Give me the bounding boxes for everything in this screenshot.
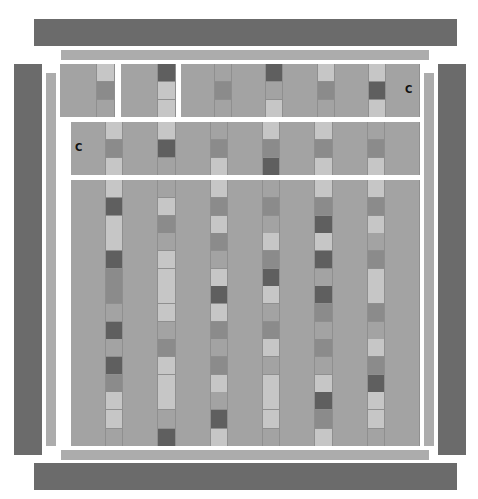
square-strip bbox=[106, 233, 123, 286]
plain-block bbox=[176, 233, 211, 286]
square-strip bbox=[211, 180, 228, 233]
strip-square bbox=[211, 216, 227, 233]
strip-square bbox=[263, 122, 279, 140]
strip-square bbox=[97, 64, 114, 82]
strip-square bbox=[106, 216, 122, 233]
strip-square bbox=[315, 140, 331, 158]
strip-square bbox=[368, 158, 384, 175]
strip-square bbox=[158, 122, 174, 140]
square-strip bbox=[211, 392, 228, 446]
strip-square bbox=[211, 357, 227, 375]
strip-square bbox=[211, 339, 227, 357]
square-strip bbox=[368, 286, 385, 339]
plain-block bbox=[333, 392, 368, 446]
strip-square bbox=[369, 82, 385, 100]
plain-block bbox=[71, 180, 106, 233]
strip-square bbox=[158, 140, 174, 158]
square-strip bbox=[106, 339, 123, 392]
second-row-panel bbox=[71, 122, 420, 175]
strip-square bbox=[106, 410, 122, 428]
outer-border-top bbox=[34, 19, 457, 46]
strip-square bbox=[106, 322, 122, 339]
strip-square bbox=[315, 322, 331, 339]
strip-square bbox=[368, 198, 384, 216]
strip-square bbox=[315, 375, 331, 392]
plain-block bbox=[176, 392, 211, 446]
plain-block bbox=[121, 64, 158, 117]
strip-square bbox=[106, 375, 122, 392]
plain-block bbox=[333, 122, 368, 175]
plain-block bbox=[333, 286, 368, 339]
plain-block bbox=[385, 180, 420, 233]
square-strip bbox=[158, 122, 175, 175]
strip-square bbox=[263, 304, 279, 322]
plain-block bbox=[176, 122, 211, 175]
square-strip bbox=[368, 392, 385, 446]
plain-block bbox=[123, 180, 158, 233]
plain-block bbox=[280, 286, 315, 339]
plain-block bbox=[333, 180, 368, 233]
strip-square bbox=[211, 410, 227, 428]
strip-square bbox=[368, 304, 384, 322]
plain-block bbox=[176, 180, 211, 233]
plain-block bbox=[280, 233, 315, 286]
strip-square bbox=[106, 304, 122, 322]
outer-border-bottom bbox=[34, 463, 457, 490]
strip-square bbox=[97, 100, 114, 117]
strip-square bbox=[368, 122, 384, 140]
square-strip bbox=[106, 286, 123, 339]
strip-square bbox=[315, 357, 331, 375]
plain-block bbox=[123, 286, 158, 339]
square-strip bbox=[263, 122, 280, 175]
strip-square bbox=[106, 122, 122, 140]
plain-block bbox=[176, 286, 211, 339]
plain-block bbox=[228, 339, 263, 392]
strip-square bbox=[158, 339, 174, 357]
square-strip bbox=[158, 286, 175, 339]
plain-block bbox=[280, 180, 315, 233]
plain-block bbox=[335, 64, 369, 117]
square-strip bbox=[263, 233, 280, 286]
grid-row bbox=[71, 286, 420, 340]
inner-border-top bbox=[61, 50, 429, 60]
strip-square bbox=[106, 251, 122, 269]
plain-block bbox=[280, 339, 315, 392]
strip-square bbox=[263, 233, 279, 251]
strip-square bbox=[368, 322, 384, 339]
strip-square bbox=[215, 64, 231, 82]
strip-square bbox=[158, 286, 174, 304]
strip-square bbox=[263, 392, 279, 410]
square-strip bbox=[106, 392, 123, 446]
strip-square bbox=[315, 198, 331, 216]
strip-square bbox=[315, 392, 331, 410]
strip-square bbox=[211, 286, 227, 304]
top-row-label: C bbox=[405, 84, 412, 95]
square-strip bbox=[106, 180, 123, 233]
strip-square bbox=[158, 64, 175, 82]
strip-square bbox=[315, 251, 331, 269]
square-strip bbox=[211, 286, 228, 339]
plain-block bbox=[232, 64, 266, 117]
square-strip bbox=[97, 64, 115, 117]
strip-square bbox=[263, 322, 279, 339]
strip-square bbox=[263, 375, 279, 392]
strip-square bbox=[368, 286, 384, 304]
plain-block bbox=[386, 64, 420, 117]
strip-square bbox=[368, 180, 384, 198]
inner-border-left bbox=[46, 73, 56, 446]
outer-border-right bbox=[438, 64, 466, 455]
strip-square bbox=[97, 82, 114, 100]
plain-block bbox=[60, 64, 97, 117]
strip-square bbox=[368, 375, 384, 392]
square-strip bbox=[368, 180, 385, 233]
strip-square bbox=[263, 251, 279, 269]
plain-block bbox=[228, 286, 263, 339]
strip-square bbox=[211, 269, 227, 286]
strip-square bbox=[263, 410, 279, 428]
square-strip bbox=[266, 64, 283, 117]
plain-block bbox=[71, 339, 106, 392]
plain-block bbox=[385, 122, 420, 175]
strip-square bbox=[368, 140, 384, 158]
strip-square bbox=[158, 429, 174, 446]
square-strip bbox=[263, 180, 280, 233]
